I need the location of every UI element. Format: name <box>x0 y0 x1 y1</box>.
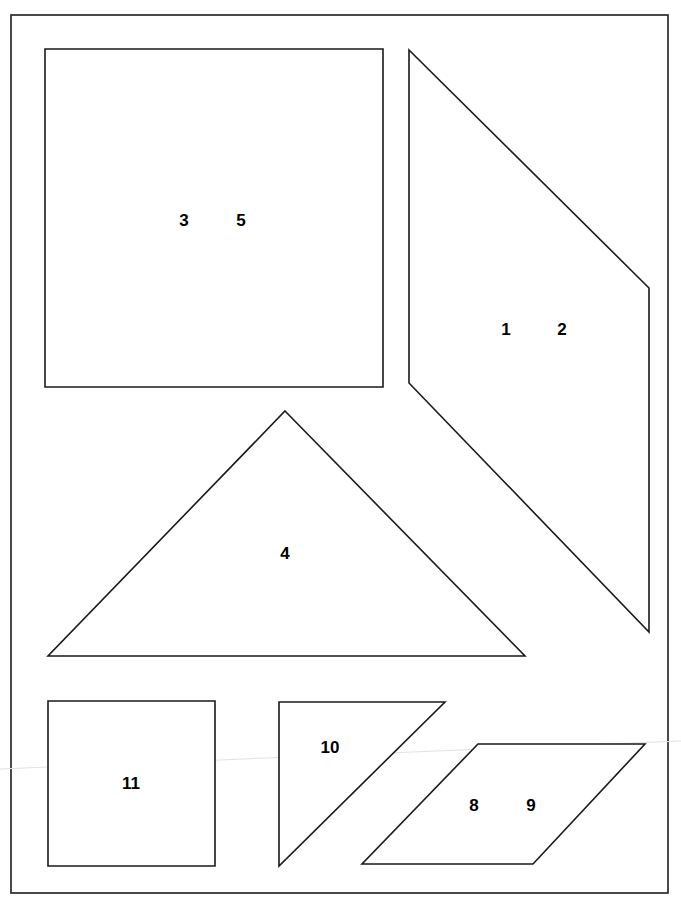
shape-quadrilateral-12-label-2: 2 <box>557 321 566 338</box>
shape-parallelogram-89-label-9: 9 <box>526 797 535 814</box>
shape-triangle-10-label-10: 10 <box>321 739 340 756</box>
shape-rectangle-35-label-5: 5 <box>236 212 245 229</box>
shape-triangle-4-label-4: 4 <box>280 545 289 562</box>
shape-rectangle-35 <box>45 49 383 387</box>
shape-quadrilateral-12-label-1: 1 <box>501 321 510 338</box>
shape-rectangle-35-label-3: 3 <box>179 212 188 229</box>
shapes-canvas <box>0 0 681 907</box>
shape-triangle-4 <box>48 411 525 656</box>
shape-square-11-label-11: 11 <box>122 775 140 792</box>
shape-parallelogram-89 <box>362 744 645 864</box>
shape-quadrilateral-12 <box>409 50 649 632</box>
shape-parallelogram-89-label-8: 8 <box>469 797 478 814</box>
worksheet-page: 35124111089 <box>0 0 681 907</box>
